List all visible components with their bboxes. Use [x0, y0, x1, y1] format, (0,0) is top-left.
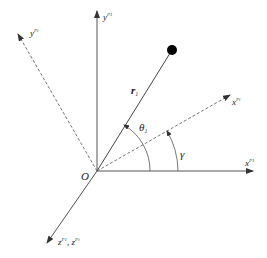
y-rotated-axis: [18, 34, 97, 171]
z-axis: [47, 171, 97, 243]
y-fixed-label: yP1: [102, 12, 113, 22]
point-dot: [167, 45, 177, 55]
coordinate-frame-diagram: O yP1 yPi xPi xP1 zP1, zPi r1 θ1 γ: [0, 0, 267, 258]
theta-label: θ1: [139, 121, 147, 134]
x-fixed-label: xP1: [244, 158, 255, 168]
r1-label: r1: [131, 84, 138, 97]
origin-label: O: [81, 170, 89, 182]
x-rotated-axis: [97, 95, 230, 171]
z-label: zP1, zPi: [57, 237, 80, 247]
gamma-arc: [167, 131, 178, 171]
y-rotated-label: yPi: [29, 28, 39, 38]
gamma-label: γ: [180, 148, 185, 160]
r1-vector: [97, 50, 172, 171]
x-rotated-label: xPi: [231, 97, 241, 107]
